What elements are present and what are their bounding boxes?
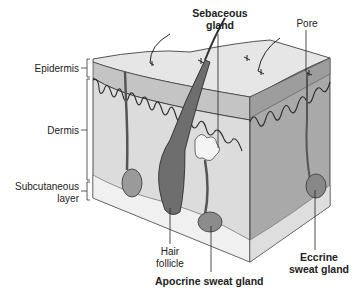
label-hair-line2: follicle bbox=[150, 258, 190, 269]
label-pore: Pore bbox=[290, 18, 324, 29]
label-epidermis: Epidermis bbox=[35, 63, 79, 74]
label-eccrine-line2: sweat gland bbox=[286, 264, 352, 275]
label-sebaceous-line1: Sebaceous bbox=[190, 8, 250, 19]
label-sebaceous-line2: gland bbox=[190, 20, 250, 31]
layer-brackets bbox=[81, 59, 90, 200]
label-dermis: Dermis bbox=[47, 125, 79, 136]
label-apocrine-sweat-gland: Apocrine sweat gland bbox=[155, 276, 264, 287]
eccrine-gland-coil bbox=[306, 174, 326, 198]
label-subcutaneous-line2: layer bbox=[57, 193, 79, 204]
sweat-coil-left bbox=[122, 169, 142, 197]
apocrine-gland-coil bbox=[198, 212, 222, 232]
label-eccrine-line1: Eccrine bbox=[286, 252, 352, 263]
label-hair-line1: Hair bbox=[150, 246, 190, 257]
label-subcutaneous-line1: Subcutaneous bbox=[15, 181, 79, 192]
